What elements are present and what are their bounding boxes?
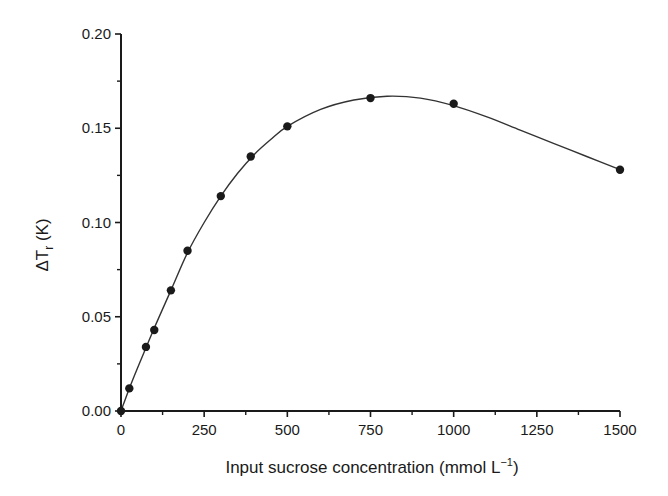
y-axis-title: ΔTr (K) [33, 218, 56, 271]
fitted-curve [121, 96, 620, 411]
data-point [366, 94, 374, 102]
y-axis: 0.000.050.100.150.20 [82, 25, 121, 419]
y-tick-label: 0.10 [82, 214, 111, 231]
data-point [283, 122, 291, 130]
x-tick-label: 1000 [437, 421, 470, 438]
x-tick-label: 750 [358, 421, 383, 438]
y-tick-label: 0.20 [82, 25, 111, 42]
x-tick-label: 250 [192, 421, 217, 438]
data-point [117, 407, 125, 415]
x-tick-label: 0 [117, 421, 125, 438]
y-tick-label: 0.00 [82, 402, 111, 419]
data-point [150, 326, 158, 334]
x-tick-label: 1250 [520, 421, 553, 438]
y-tick-label: 0.15 [82, 119, 111, 136]
data-point [616, 166, 624, 174]
x-axis: 0250500750100012501500 [117, 411, 637, 438]
x-axis-title: Input sucrose concentration (mmol L−1) [225, 456, 518, 477]
data-point [125, 384, 133, 392]
y-tick-label: 0.05 [82, 308, 111, 325]
data-points [117, 94, 624, 415]
data-point [449, 100, 457, 108]
data-point [142, 343, 150, 351]
data-point [167, 286, 175, 294]
data-point [183, 247, 191, 255]
data-point [217, 192, 225, 200]
x-tick-label: 500 [275, 421, 300, 438]
chart: 0.000.050.100.150.20 0250500750100012501… [0, 0, 668, 496]
data-point [247, 152, 255, 160]
x-tick-label: 1500 [603, 421, 636, 438]
